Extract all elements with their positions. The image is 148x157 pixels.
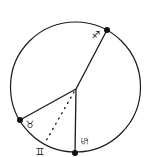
taurus-symbol: ♉ [26, 119, 35, 130]
sagittarius-symbol: ♐ [92, 29, 101, 40]
sagittarius-point [104, 27, 110, 33]
taurus-radius-line [20, 89, 76, 120]
zodiac-circle-diagram: ♐♉♋♊ [0, 0, 148, 157]
gemini-dotted-line [46, 92, 74, 141]
gemini-symbol: ♊ [36, 146, 45, 157]
taurus-point [17, 117, 23, 123]
cancer-point [72, 150, 78, 156]
cancer-symbol: ♋ [79, 137, 90, 146]
cancer-radius-line [75, 89, 76, 153]
